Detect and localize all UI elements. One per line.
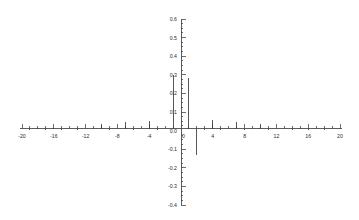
- x-tick-label: -12: [82, 133, 90, 139]
- y-tick-label: -0.1: [168, 146, 177, 152]
- y-tick-label: 0.2: [170, 90, 177, 96]
- y-tick-label: -0.2: [168, 165, 177, 171]
- x-tick-label: 16: [305, 133, 311, 139]
- y-tick-label: 0.6: [170, 16, 177, 22]
- x-tick-label: 20: [337, 133, 343, 139]
- y-tick-label: 0.4: [170, 53, 177, 59]
- stem-plot-figure: -20-16-12-8-4048121620-0.4-0.3-0.2-0.10.…: [0, 0, 359, 220]
- x-tick-label: 0: [182, 133, 185, 139]
- x-tick-label: 8: [243, 133, 246, 139]
- ticks-group: [22, 19, 340, 205]
- x-tick-label: -4: [147, 133, 152, 139]
- x-tick-label: -8: [115, 133, 120, 139]
- x-tick-label: 4: [211, 133, 214, 139]
- y-tick-label: -0.4: [168, 202, 177, 208]
- y-tick-label: 0.0: [170, 128, 177, 134]
- y-tick-label: 0.1: [170, 109, 177, 115]
- y-tick-label: -0.3: [168, 183, 177, 189]
- y-tick-label: 0.3: [170, 72, 177, 78]
- x-tick-label: -16: [50, 133, 58, 139]
- y-tick-label: 0.5: [170, 35, 177, 41]
- x-tick-label: -20: [18, 133, 26, 139]
- x-tick-label: 12: [274, 133, 280, 139]
- stem-plot-canvas: -20-16-12-8-4048121620-0.4-0.3-0.2-0.10.…: [0, 0, 359, 220]
